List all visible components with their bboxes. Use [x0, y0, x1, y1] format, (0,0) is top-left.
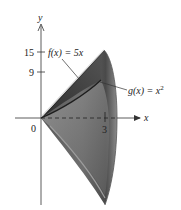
f-leader-line [62, 59, 80, 80]
y-tick-label-15: 15 [24, 47, 34, 58]
g-curve-label: g(x) = x2 [128, 84, 164, 97]
origin-label: 0 [31, 123, 36, 134]
x-axis-arrow-icon [134, 115, 141, 121]
x-axis-label: x [143, 112, 149, 123]
y-tick-label-9: 9 [29, 67, 34, 78]
solid-of-revolution-figure: y 15 9 x 3 0 f(x) = 5x g(x) = x2 [0, 0, 181, 210]
y-axis-label: y [37, 12, 43, 23]
f-curve-label: f(x) = 5x [48, 47, 84, 59]
x-tick-label-3: 3 [102, 124, 107, 135]
